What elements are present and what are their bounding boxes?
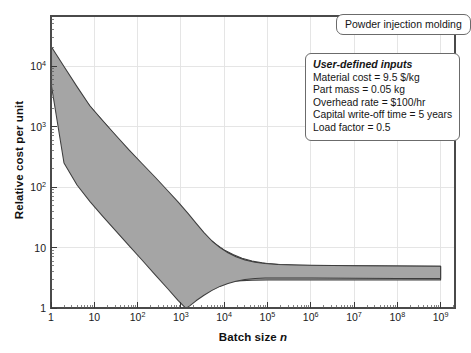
- inputs-box-row-material-cost: Material cost = 9.5 $/kg: [313, 72, 452, 85]
- inputs-box-row-part-mass: Part mass = 0.05 kg: [313, 84, 452, 97]
- inputs-box-row-overhead-rate: Overhead rate = $100/hr: [313, 97, 452, 110]
- chart-title-box: Powder injection molding: [336, 14, 471, 35]
- x-axis-title-variable: n: [280, 331, 287, 343]
- y-tick-label-1e4: 104: [19, 60, 46, 72]
- inputs-box-row-load-factor: Load factor = 0.5: [313, 122, 452, 135]
- x-tick-label-1e7: 107: [346, 311, 362, 323]
- x-tick-label-1e6: 106: [303, 311, 319, 323]
- y-tick-label-10: 10: [24, 242, 46, 254]
- x-tick-label-1e8: 108: [389, 311, 405, 323]
- y-axis-title: Relative cost per unit: [13, 80, 25, 240]
- x-tick-label-1e4: 104: [216, 311, 232, 323]
- x-tick-label-1: 1: [48, 311, 54, 323]
- x-tick-label-1e5: 105: [260, 311, 276, 323]
- user-defined-inputs-box: User-defined inputs Material cost = 9.5 …: [305, 53, 460, 141]
- inputs-box-row-capital-writeoff: Capital write-off time = 5 years: [313, 109, 452, 122]
- x-tick-label-10: 10: [88, 311, 100, 323]
- chart-title-label: Powder injection molding: [345, 18, 462, 30]
- y-tick-label-1: 1: [24, 302, 46, 314]
- x-tick-label-1e3: 103: [173, 311, 189, 323]
- x-axis-title-main: Batch size: [219, 331, 277, 343]
- x-tick-label-1e2: 102: [130, 311, 146, 323]
- x-tick-label-1e9: 109: [433, 311, 449, 323]
- x-axis-title: Batch size n: [51, 331, 455, 343]
- inputs-box-heading: User-defined inputs: [313, 58, 452, 71]
